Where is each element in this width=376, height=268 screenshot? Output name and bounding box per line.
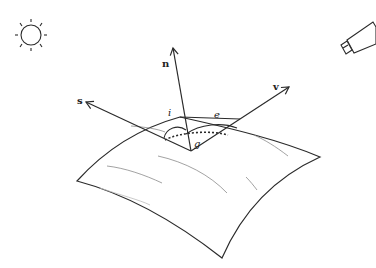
sun-icon (15, 19, 47, 51)
label-s: s (77, 95, 83, 106)
diagram-canvas: s n v i e g (0, 0, 376, 268)
label-angle-e: e (214, 109, 220, 120)
label-v: v (272, 81, 280, 92)
label-angle-g: g (194, 138, 200, 149)
label-n: n (162, 58, 170, 69)
camera-icon (341, 22, 376, 54)
label-angle-i: i (168, 107, 171, 118)
